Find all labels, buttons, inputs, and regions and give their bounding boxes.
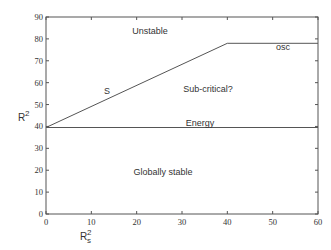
y-tick-label: 50	[35, 100, 44, 110]
y-tick-label: 60	[35, 78, 44, 88]
y-tick-label: 20	[35, 165, 44, 175]
x-tick-label: 20	[132, 217, 141, 227]
label-unstable: Unstable	[132, 26, 168, 36]
y-tick-label: 70	[35, 56, 44, 66]
y-tick-label: 30	[35, 143, 44, 153]
label-osc: osc	[276, 42, 291, 52]
label-s: S	[104, 86, 110, 96]
y-axis-label: R 2	[18, 109, 30, 123]
x-tick-label: 60	[314, 217, 323, 227]
stability-chart: 0102030405060708090 0102030405060 Unstab…	[0, 0, 331, 250]
svg-text:s: s	[87, 236, 91, 245]
svg-text:2: 2	[25, 109, 30, 118]
s-curve	[46, 43, 318, 127]
label-globally-stable: Globally stable	[133, 167, 192, 177]
x-axis-label: R 2 s	[80, 228, 92, 245]
y-tick-label: 90	[35, 12, 44, 22]
x-tick-label: 50	[268, 217, 277, 227]
y-tick-label: 10	[35, 187, 44, 197]
y-tick-label: 0	[39, 209, 43, 219]
y-tick-label: 80	[35, 34, 44, 44]
x-tick-label: 0	[44, 217, 48, 227]
label-subcritical: Sub-critical?	[183, 84, 233, 94]
x-tick-label: 30	[178, 217, 187, 227]
y-tick-label: 40	[35, 121, 44, 131]
label-energy: Energy	[186, 118, 215, 128]
x-tick-label: 10	[87, 217, 96, 227]
x-tick-label: 40	[223, 217, 232, 227]
